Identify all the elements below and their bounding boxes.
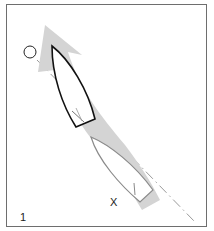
buoy-icon xyxy=(24,46,36,58)
mark-x-label: X xyxy=(110,196,117,208)
boat-current-position xyxy=(52,46,95,127)
panel-number: 1 xyxy=(20,211,26,223)
maneuver-diagram xyxy=(0,0,214,231)
